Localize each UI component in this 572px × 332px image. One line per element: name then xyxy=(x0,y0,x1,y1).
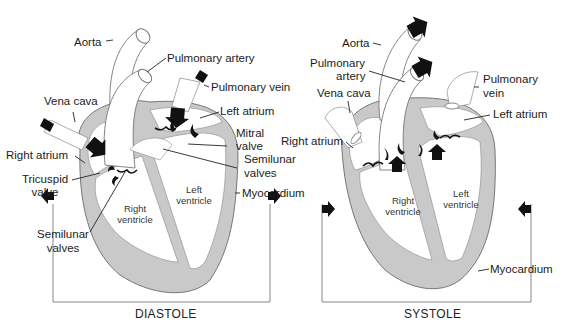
label-semilunar-valves-left-1: Semilunar xyxy=(32,228,94,241)
label-pulmonary-artery-diastole: Pulmonary artery xyxy=(167,52,255,65)
label-myocardium-diastole: Myocardium xyxy=(242,187,305,200)
label-right-atrium-diastole: Right atrium xyxy=(6,149,68,162)
label-mitral-valve-diastole-1: Mitral xyxy=(236,127,264,140)
label-left-ventricle-systole-2: ventricle xyxy=(438,199,484,210)
label-right-ventricle-diastole-2: ventricle xyxy=(112,214,158,225)
label-left-atrium-diastole: Left atrium xyxy=(220,105,274,118)
label-tricuspid-valve-2: valve xyxy=(18,186,72,199)
label-aorta-systole: Aorta xyxy=(342,37,370,50)
figure-caption-cutoff xyxy=(50,323,480,332)
panel-title-systole: SYSTOLE xyxy=(404,307,461,321)
label-semilunar-valves-left-2: valves xyxy=(32,242,94,255)
label-semilunar-valves-right-2: valves xyxy=(244,167,277,180)
label-right-ventricle-systole-1: Right xyxy=(380,195,426,206)
label-pulmonary-vein-diastole: Pulmonary vein xyxy=(211,81,290,94)
heart-cycle-figure xyxy=(0,0,572,332)
label-left-atrium-systole: Left atrium xyxy=(493,108,547,121)
label-right-atrium-systole: Right atrium xyxy=(281,135,343,148)
label-left-ventricle-systole-1: Left xyxy=(438,188,484,199)
label-semilunar-valves-right-1: Semilunar xyxy=(244,153,296,166)
label-vena-cava-systole: Vena cava xyxy=(317,87,371,100)
label-left-ventricle-diastole-1: Left xyxy=(171,184,217,195)
label-vena-cava-diastole: Vena cava xyxy=(44,95,98,108)
systole-heart xyxy=(325,12,495,289)
label-mitral-valve-diastole-2: valve xyxy=(236,140,263,153)
label-myocardium-systole: Myocardium xyxy=(490,263,553,276)
label-aorta-diastole: Aorta xyxy=(74,36,102,49)
label-pulmonary-artery-systole-1: Pulmonary xyxy=(310,57,365,70)
label-right-ventricle-diastole-1: Right xyxy=(112,203,158,214)
label-pulmonary-vein-systole-1: Pulmonary xyxy=(483,73,538,86)
label-left-ventricle-diastole-2: ventricle xyxy=(171,195,217,206)
label-pulmonary-vein-systole-2: vein xyxy=(483,87,504,100)
panel-title-diastole: DIASTOLE xyxy=(135,307,197,321)
label-tricuspid-valve-1: Tricuspid xyxy=(18,173,72,186)
label-pulmonary-artery-systole-2: artery xyxy=(336,70,365,83)
label-right-ventricle-systole-2: ventricle xyxy=(380,206,426,217)
